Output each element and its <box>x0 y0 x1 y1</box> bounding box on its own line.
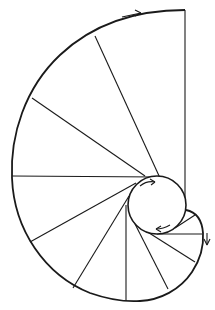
diagram-canvas <box>0 0 215 310</box>
base-circle <box>128 176 186 234</box>
involute-diagram <box>0 0 215 310</box>
involute-curve <box>12 10 203 301</box>
right-arrow-icon <box>204 233 210 245</box>
tangent-line <box>146 231 195 262</box>
tangent-line <box>32 98 145 176</box>
tangent-line <box>30 183 136 242</box>
tangent-line <box>73 196 129 288</box>
tangent-line <box>95 36 160 178</box>
tangent-line <box>12 176 158 177</box>
